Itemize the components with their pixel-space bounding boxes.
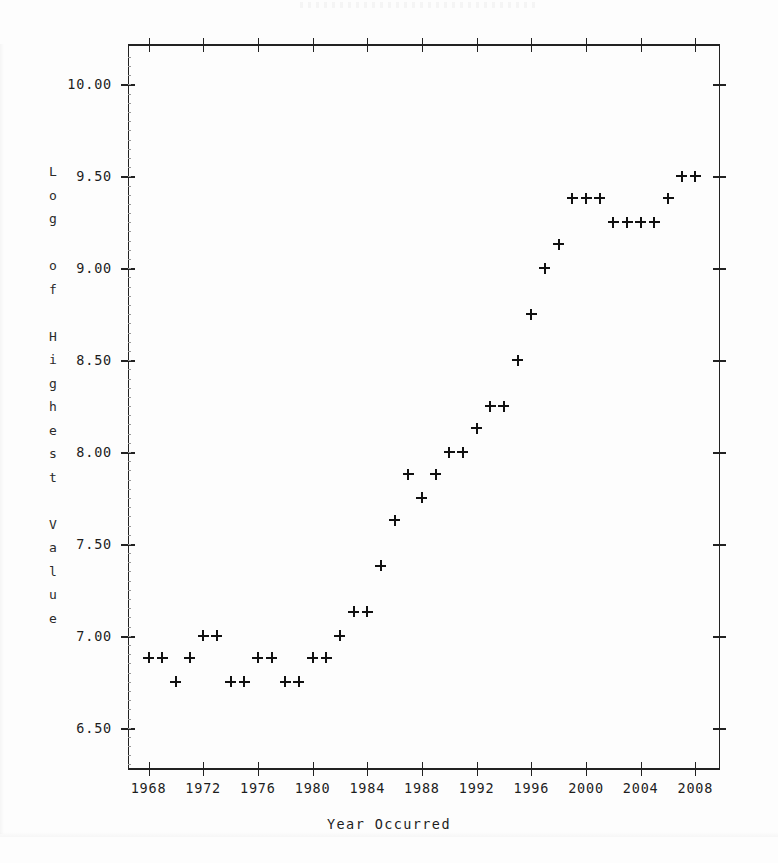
y-axis-title-char: H	[44, 325, 62, 349]
y-axis-title-char: o	[44, 184, 62, 208]
x-tick-label-1968: 1968	[119, 780, 179, 796]
y-axis-title-char	[44, 231, 62, 255]
y-axis-title-char: o	[44, 254, 62, 278]
x-tick-label-2004: 2004	[611, 780, 671, 796]
x-tick-label-1976: 1976	[228, 780, 288, 796]
y-axis-title-char	[44, 489, 62, 513]
y-axis-title-char: L	[44, 160, 62, 184]
y-axis-title-char: u	[44, 583, 62, 607]
x-tick-label-1996: 1996	[501, 780, 561, 796]
y-axis-title-char: a	[44, 536, 62, 560]
y-axis-title: Log of Highest Value	[44, 160, 62, 630]
y-axis-title-char: s	[44, 442, 62, 466]
x-axis-title: Year Occurred	[0, 816, 778, 832]
y-axis-title-char: h	[44, 395, 62, 419]
x-tick-label-2008: 2008	[665, 780, 725, 796]
x-tick-label-1980: 1980	[283, 780, 343, 796]
y-axis-title-char	[44, 301, 62, 325]
y-axis-title-char: f	[44, 278, 62, 302]
x-tick-label-2000: 2000	[556, 780, 616, 796]
y-axis-title-char: V	[44, 513, 62, 537]
y-axis-title-char: g	[44, 372, 62, 396]
x-tick-label-1992: 1992	[447, 780, 507, 796]
y-axis-title-char: g	[44, 207, 62, 231]
y-axis-title-char: i	[44, 348, 62, 372]
y-axis-title-char: l	[44, 560, 62, 584]
y-axis-title-char: e	[44, 607, 62, 631]
x-tick-label-1984: 1984	[337, 780, 397, 796]
y-axis-title-char: t	[44, 466, 62, 490]
y-axis-title-char: e	[44, 419, 62, 443]
scanned-chart-page: 6.507.007.508.008.509.009.5010.00 196819…	[0, 0, 778, 863]
x-axis-tick-labels: 1968197219761980198419881992199620002004…	[0, 0, 778, 863]
x-tick-label-1972: 1972	[173, 780, 233, 796]
x-tick-label-1988: 1988	[392, 780, 452, 796]
